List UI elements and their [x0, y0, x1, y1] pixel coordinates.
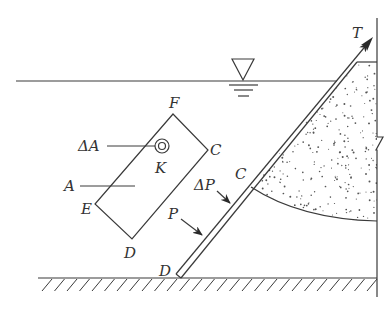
- p-arrow: [181, 219, 202, 235]
- water-level-icon: [229, 59, 258, 96]
- delta-p-arrow: [217, 191, 230, 203]
- soil-backfill: [249, 59, 378, 224]
- element-k-inner-icon: [159, 143, 166, 150]
- label-a: A: [62, 177, 75, 195]
- ground-hatch: [38, 278, 377, 291]
- label-c-plate: C: [235, 165, 247, 183]
- label-f: F: [168, 94, 180, 112]
- label-d-rect: D: [123, 244, 136, 262]
- label-c-rect: C: [210, 141, 222, 159]
- diagram-canvas: T F C ΔA K A E D ΔP C P D: [0, 0, 392, 319]
- label-delta-p: ΔP: [193, 176, 216, 194]
- right-wall: [376, 18, 383, 297]
- element-k-outer-icon: [155, 139, 169, 153]
- label-delta-a: ΔA: [77, 137, 100, 155]
- label-e: E: [80, 200, 92, 218]
- label-p: P: [167, 205, 179, 223]
- label-k: K: [154, 159, 167, 177]
- plate-face-rectangle: [95, 114, 208, 239]
- label-d-plate: D: [158, 262, 171, 280]
- label-t: T: [352, 24, 363, 42]
